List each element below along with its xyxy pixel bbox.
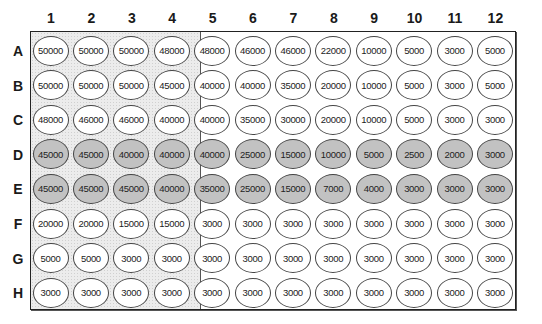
well-G10: 3000 [396,243,432,273]
well-C9: 10000 [356,105,392,135]
well-B4: 45000 [154,70,190,100]
column-header-7: 7 [273,10,313,26]
well-D12: 3000 [477,139,513,169]
well-E1: 45000 [33,174,69,204]
column-header-4: 4 [152,10,192,26]
well-F3: 15000 [113,209,149,239]
well-F6: 3000 [235,209,271,239]
well-D7: 15000 [275,139,311,169]
well-G7: 3000 [275,243,311,273]
well-H4: 3000 [154,278,190,308]
well-H8: 3000 [315,278,351,308]
well-A3: 50000 [113,36,149,66]
well-C6: 35000 [235,105,271,135]
well-D8: 10000 [315,139,351,169]
well-F10: 3000 [396,209,432,239]
well-D9: 5000 [356,139,392,169]
well-D5: 40000 [194,139,230,169]
well-G1: 5000 [33,243,69,273]
well-B12: 5000 [477,70,513,100]
row-header-H: H [10,285,26,301]
well-H6: 3000 [235,278,271,308]
row-header-C: C [10,112,26,128]
well-C10: 5000 [396,105,432,135]
well-A11: 3000 [437,36,473,66]
well-H10: 3000 [396,278,432,308]
column-header-6: 6 [233,10,273,26]
well-F4: 15000 [154,209,190,239]
well-B9: 10000 [356,70,392,100]
well-B7: 35000 [275,70,311,100]
well-F8: 3000 [315,209,351,239]
column-header-2: 2 [71,10,111,26]
well-A4: 48000 [154,36,190,66]
well-B8: 20000 [315,70,351,100]
well-E6: 25000 [235,174,271,204]
well-G5: 3000 [194,243,230,273]
well-G6: 3000 [235,243,271,273]
well-G8: 3000 [315,243,351,273]
well-E2: 45000 [73,174,109,204]
row-header-A: A [10,43,26,59]
well-H3: 3000 [113,278,149,308]
well-A8: 22000 [315,36,351,66]
well-G4: 3000 [154,243,190,273]
well-C4: 40000 [154,105,190,135]
well-D4: 40000 [154,139,190,169]
well-C8: 20000 [315,105,351,135]
well-H12: 3000 [477,278,513,308]
well-A7: 46000 [275,36,311,66]
well-B5: 40000 [194,70,230,100]
well-G11: 3000 [437,243,473,273]
well-H2: 3000 [73,278,109,308]
row-header-B: B [10,78,26,94]
column-header-11: 11 [435,10,475,26]
well-C5: 40000 [194,105,230,135]
well-G12: 3000 [477,243,513,273]
well-E12: 3000 [477,174,513,204]
well-A2: 50000 [73,36,109,66]
well-D1: 45000 [33,139,69,169]
well-D11: 2000 [437,139,473,169]
well-F9: 3000 [356,209,392,239]
column-header-12: 12 [475,10,515,26]
well-C7: 30000 [275,105,311,135]
well-E3: 45000 [113,174,149,204]
well-C11: 3000 [437,105,473,135]
well-B2: 50000 [73,70,109,100]
column-header-10: 10 [395,10,435,26]
well-C12: 3000 [477,105,513,135]
well-H7: 3000 [275,278,311,308]
well-H1: 3000 [33,278,69,308]
well-A10: 5000 [396,36,432,66]
row-header-F: F [10,216,26,232]
well-D10: 2500 [396,139,432,169]
row-header-G: G [10,251,26,267]
row-header-E: E [10,181,26,197]
well-F1: 20000 [33,209,69,239]
row-header-D: D [10,147,26,163]
well-B11: 3000 [437,70,473,100]
column-header-8: 8 [314,10,354,26]
well-A5: 48000 [194,36,230,66]
well-C3: 46000 [113,105,149,135]
column-header-1: 1 [31,10,71,26]
well-C1: 48000 [33,105,69,135]
well-E10: 3000 [396,174,432,204]
well-C2: 46000 [73,105,109,135]
microplate-96-well: 5000050000500004800048000460004600022000… [30,31,516,310]
well-B1: 50000 [33,70,69,100]
well-D6: 25000 [235,139,271,169]
well-E7: 15000 [275,174,311,204]
well-E8: 7000 [315,174,351,204]
well-H5: 3000 [194,278,230,308]
well-G9: 3000 [356,243,392,273]
well-A1: 50000 [33,36,69,66]
column-header-5: 5 [193,10,233,26]
well-B10: 5000 [396,70,432,100]
well-A9: 10000 [356,36,392,66]
well-E9: 4000 [356,174,392,204]
well-E5: 35000 [194,174,230,204]
well-B6: 40000 [235,70,271,100]
well-F11: 3000 [437,209,473,239]
